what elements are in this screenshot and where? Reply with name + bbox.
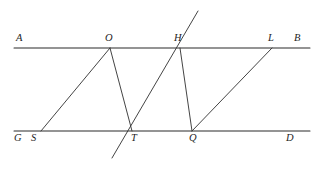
point-label-O: O <box>105 33 113 44</box>
point-label-G: G <box>14 133 22 144</box>
segment-group <box>41 48 272 131</box>
geometry-figure: AOHLBGSTQD <box>0 0 320 169</box>
point-label-H: H <box>174 33 182 44</box>
geometry-canvas <box>0 0 320 169</box>
segment-S-O <box>41 48 110 131</box>
segment-Q-L <box>192 48 272 131</box>
segment-H-Q <box>180 48 192 131</box>
segment-O-T <box>110 48 132 131</box>
point-label-T: T <box>131 133 137 144</box>
point-label-D: D <box>286 133 294 144</box>
point-label-A: A <box>16 33 22 44</box>
point-label-Q: Q <box>189 133 197 144</box>
point-label-S: S <box>31 133 36 144</box>
point-label-B: B <box>294 33 300 44</box>
point-label-L: L <box>268 33 274 44</box>
